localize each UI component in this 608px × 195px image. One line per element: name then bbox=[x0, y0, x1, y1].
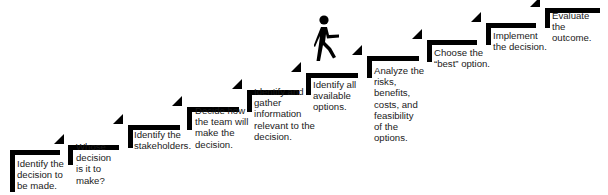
step-9-riser bbox=[486, 23, 491, 45]
step-3-corner-triangle bbox=[113, 114, 123, 124]
step-10-label: Evaluate the outcome. bbox=[552, 10, 591, 44]
step-7-label: Analyze the risks, benefits, costs, and … bbox=[374, 65, 424, 143]
step-4-riser bbox=[187, 107, 192, 130]
step-9-label: Implement the decision. bbox=[493, 30, 547, 52]
step-9-corner-triangle bbox=[471, 12, 481, 22]
step-1-label: Identify the decision to be made. bbox=[17, 158, 64, 192]
step-8-riser bbox=[427, 40, 432, 62]
step-8-tread bbox=[427, 40, 477, 45]
step-4-corner-triangle bbox=[172, 96, 182, 106]
step-2-corner-triangle bbox=[54, 134, 64, 144]
step-10-riser bbox=[545, 8, 550, 28]
step-6-corner-triangle bbox=[291, 62, 301, 72]
step-5-riser bbox=[247, 90, 252, 112]
step-1-tread bbox=[10, 150, 60, 155]
step-7-tread bbox=[367, 56, 419, 61]
step-8-label: Choose the “best” option. bbox=[434, 47, 490, 69]
step-3-label: Identify the stakeholders. bbox=[134, 129, 191, 151]
step-7-corner-triangle bbox=[352, 45, 362, 55]
step-1-riser bbox=[10, 150, 15, 192]
step-6-tread bbox=[306, 73, 358, 78]
step-10-corner-triangle bbox=[530, 0, 540, 7]
step-8-corner-triangle bbox=[412, 29, 422, 39]
step-2-riser bbox=[68, 145, 73, 165]
step-6-label: Identify all available options. bbox=[313, 79, 356, 113]
step-9-tread bbox=[486, 23, 536, 28]
decision-staircase-diagram: Identify the decision to be made. Whose … bbox=[0, 0, 608, 195]
step-5-corner-triangle bbox=[232, 79, 242, 89]
step-7-riser bbox=[367, 56, 372, 78]
walking-person-icon bbox=[314, 14, 348, 64]
step-3-riser bbox=[128, 125, 133, 148]
step-2-label: Whose decision is it to make? bbox=[76, 141, 111, 186]
step-4-label: Decide how the team will make the decisi… bbox=[195, 105, 248, 150]
step-6-riser bbox=[306, 73, 311, 95]
